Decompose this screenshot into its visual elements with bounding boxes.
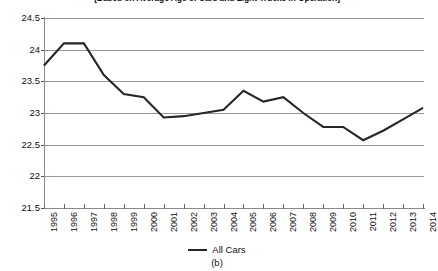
x-axis-tick-label: 2007 bbox=[288, 212, 298, 246]
x-axis-tick-mark bbox=[164, 204, 165, 209]
chart-legend: All Cars bbox=[0, 244, 434, 255]
gridline bbox=[44, 176, 424, 177]
x-axis-tick-mark bbox=[403, 204, 404, 209]
legend-swatch-all-cars bbox=[188, 249, 207, 251]
gridline bbox=[44, 50, 424, 51]
x-axis-tick-label: 2005 bbox=[248, 212, 258, 246]
x-axis-tick-label: 1996 bbox=[69, 212, 79, 246]
x-axis-tick-mark bbox=[303, 204, 304, 209]
x-axis-tick-mark bbox=[224, 204, 225, 209]
x-axis-tick-mark bbox=[423, 204, 424, 209]
x-axis-tick-mark bbox=[323, 204, 324, 209]
x-axis-tick-label: 2000 bbox=[149, 212, 159, 246]
x-axis-tick-mark bbox=[363, 204, 364, 209]
x-axis-tick-label: 2006 bbox=[268, 212, 278, 246]
y-axis-tick-label: 22 bbox=[0, 171, 40, 181]
x-axis-tick-mark bbox=[64, 204, 65, 209]
x-axis-tick-label: 2008 bbox=[308, 212, 318, 246]
x-axis-tick-mark bbox=[184, 204, 185, 209]
x-axis-tick-label: 2002 bbox=[189, 212, 199, 246]
x-axis-tick-label: 2004 bbox=[229, 212, 239, 246]
x-axis-tick-label: 2011 bbox=[368, 212, 378, 246]
x-axis-tick-label: 2010 bbox=[348, 212, 358, 246]
gridline bbox=[44, 113, 424, 114]
y-axis-tick-label: 21.5 bbox=[0, 203, 40, 213]
x-axis-tick-mark bbox=[243, 204, 244, 209]
y-axis-line bbox=[44, 17, 45, 209]
x-axis-tick-mark bbox=[383, 204, 384, 209]
x-axis-tick-mark bbox=[283, 204, 284, 209]
x-axis-tick-label: 2003 bbox=[209, 212, 219, 246]
chart-title: [Based on Average Age of Cars and Light … bbox=[0, 0, 434, 3]
y-axis-tick-label: 24.5 bbox=[0, 13, 40, 23]
x-axis-tick-label: 1997 bbox=[89, 212, 99, 246]
x-axis-tick-label: 1999 bbox=[129, 212, 139, 246]
x-axis-tick-label: 2012 bbox=[388, 212, 398, 246]
gridline bbox=[44, 81, 424, 82]
x-axis-tick-label: 2013 bbox=[408, 212, 418, 246]
gridline bbox=[44, 145, 424, 146]
y-axis-tick-label: 22.5 bbox=[0, 140, 40, 150]
y-axis-tick-label: 23 bbox=[0, 108, 40, 118]
x-axis-tick-mark bbox=[104, 204, 105, 209]
x-axis-tick-mark bbox=[204, 204, 205, 209]
y-axis-tick-label: 24 bbox=[0, 45, 40, 55]
x-axis-tick-label: 2009 bbox=[328, 212, 338, 246]
y-axis-tick-labels: 24.52423.52322.52221.5 bbox=[0, 0, 40, 271]
x-axis-tick-mark bbox=[84, 204, 85, 209]
x-axis-tick-label: 2014 bbox=[428, 212, 438, 246]
figure-caption: (b) bbox=[0, 257, 434, 268]
x-axis-tick-mark bbox=[263, 204, 264, 209]
gridline bbox=[44, 18, 424, 19]
x-axis-tick-label: 1995 bbox=[49, 212, 59, 246]
x-axis-tick-label: 1998 bbox=[109, 212, 119, 246]
y-axis-tick-label: 23.5 bbox=[0, 76, 40, 86]
x-axis-tick-label: 2001 bbox=[169, 212, 179, 246]
x-axis-tick-mark bbox=[44, 204, 45, 209]
x-axis-line bbox=[44, 208, 425, 209]
x-axis-tick-mark bbox=[124, 204, 125, 209]
legend-label-all-cars: All Cars bbox=[212, 244, 245, 255]
x-axis-tick-mark bbox=[144, 204, 145, 209]
plot-area bbox=[44, 18, 424, 208]
x-axis-tick-mark bbox=[343, 204, 344, 209]
